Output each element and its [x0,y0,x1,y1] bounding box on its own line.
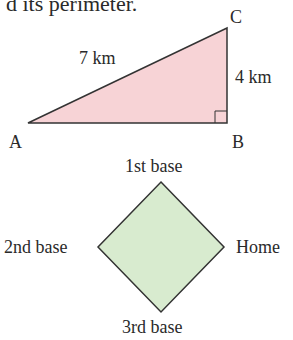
diamond-label-right: Home [236,238,280,256]
vertex-label-a: A [9,133,22,151]
side-label-vertical: 4 km [235,68,272,86]
diamond-shape [98,182,224,312]
diamond-label-top: 1st base [125,157,183,175]
diamond-label-left: 2nd base [4,238,67,256]
vertex-label-b: B [232,133,244,151]
vertex-label-c: C [230,8,242,26]
side-label-hypotenuse: 7 km [79,49,116,67]
triangle-shape [28,28,227,123]
diamond-label-bottom: 3rd base [122,318,182,336]
